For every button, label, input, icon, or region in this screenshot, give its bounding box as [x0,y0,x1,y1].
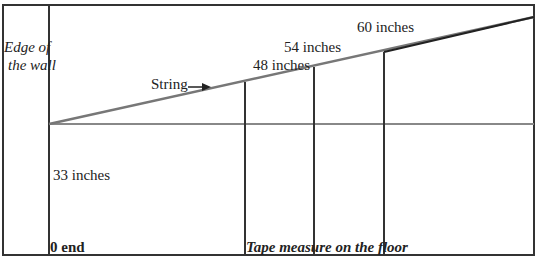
measure-54-label: 54 inches [284,40,341,55]
zero-end-label: 0 end [50,240,85,255]
measure-48-label: 48 inches [253,58,310,73]
wall-label-line2: the wall [8,58,56,73]
wall-label-line1: Edge of [4,40,50,55]
tape-measure-label: Tape measure on the floor [246,240,408,255]
measure-33-label: 33 inches [53,168,110,183]
outer-frame [3,5,534,255]
string-label: String [151,77,188,92]
measure-60-label: 60 inches [357,20,414,35]
diagram-canvas [0,0,537,259]
